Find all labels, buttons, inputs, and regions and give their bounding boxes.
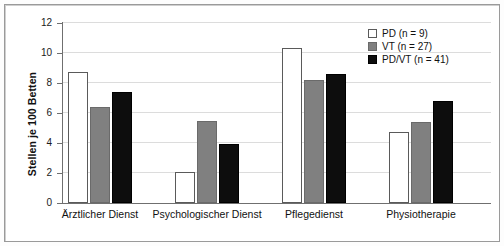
bar[interactable] bbox=[90, 107, 110, 203]
y-tick-label: 6 bbox=[18, 108, 52, 118]
bar[interactable] bbox=[389, 132, 409, 203]
y-tick-mark bbox=[57, 113, 63, 114]
legend-label: VT (n = 27) bbox=[382, 40, 432, 53]
bar[interactable] bbox=[411, 122, 431, 203]
x-axis-line bbox=[62, 203, 491, 204]
y-tick-mark bbox=[57, 203, 63, 204]
y-tick-mark bbox=[57, 83, 63, 84]
legend-label: PD (n = 9) bbox=[382, 27, 428, 40]
chart-legend: PD (n = 9)VT (n = 27)PD/VT (n = 41) bbox=[368, 27, 449, 66]
bar[interactable] bbox=[175, 172, 195, 204]
legend-item[interactable]: VT (n = 27) bbox=[368, 40, 449, 53]
legend-swatch-icon bbox=[368, 29, 377, 38]
bar[interactable] bbox=[326, 74, 346, 203]
legend-label: PD/VT (n = 41) bbox=[382, 53, 449, 66]
legend-swatch-icon bbox=[368, 42, 377, 51]
bar-group bbox=[282, 23, 346, 203]
y-axis-label: Stellen je 100 Betten bbox=[26, 44, 38, 204]
y-tick-label: 8 bbox=[18, 78, 52, 88]
y-tick-mark bbox=[57, 173, 63, 174]
legend-item[interactable]: PD/VT (n = 41) bbox=[368, 53, 449, 66]
y-tick-label: 0 bbox=[18, 198, 52, 208]
bar-group bbox=[175, 23, 239, 203]
y-tick-label: 12 bbox=[18, 18, 52, 28]
bar[interactable] bbox=[112, 92, 132, 203]
y-tick-label: 10 bbox=[18, 48, 52, 58]
x-axis-category-label: Physiotherapie bbox=[351, 208, 491, 220]
y-tick-mark bbox=[57, 53, 63, 54]
bar[interactable] bbox=[282, 48, 302, 203]
y-tick-label: 4 bbox=[18, 138, 52, 148]
y-tick-mark bbox=[57, 143, 63, 144]
bar[interactable] bbox=[197, 121, 217, 204]
bar[interactable] bbox=[433, 101, 453, 203]
bar-group bbox=[68, 23, 132, 203]
bar[interactable] bbox=[219, 144, 239, 203]
figure-container: Stellen je 100 Betten 024681012 Ärztlich… bbox=[0, 0, 504, 246]
bar[interactable] bbox=[304, 80, 324, 203]
bar[interactable] bbox=[68, 72, 88, 203]
legend-item[interactable]: PD (n = 9) bbox=[368, 27, 449, 40]
legend-swatch-icon bbox=[368, 55, 377, 64]
y-tick-mark bbox=[57, 23, 63, 24]
y-tick-label: 2 bbox=[18, 168, 52, 178]
